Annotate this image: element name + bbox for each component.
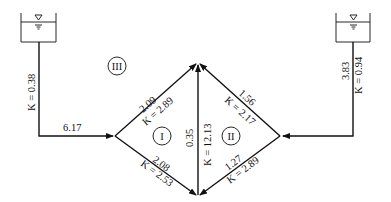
right-reservoir <box>336 13 370 42</box>
right-supply-flow-label: 3.83 <box>340 62 351 80</box>
right-supply-k-label: K = 0.94 <box>353 56 364 94</box>
middle-k-label: K = 12.13 <box>202 124 213 166</box>
left-supply-k-label: K = 0.38 <box>26 74 37 111</box>
svg-text:II: II <box>228 131 235 142</box>
svg-text:I: I <box>160 131 164 142</box>
pipe-network-diagram: K = 0.38 6.17 3.83 K = 0.94 2.09 K = 2.8… <box>0 0 391 202</box>
loop-marker-I: I <box>153 127 171 145</box>
middle-flow-label: 0.35 <box>184 129 195 147</box>
loop-marker-III: III <box>108 57 126 75</box>
loop-marker-II: II <box>222 127 240 145</box>
pipe-right-supply <box>283 42 353 136</box>
left-supply-flow-label: 6.17 <box>63 122 81 133</box>
svg-text:III: III <box>112 61 123 72</box>
left-reservoir <box>21 13 56 42</box>
